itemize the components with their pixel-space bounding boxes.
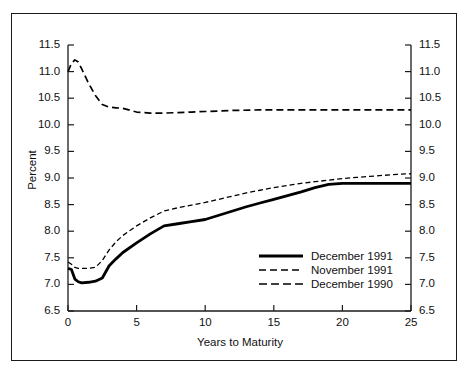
legend-swatch-solid [258, 250, 304, 262]
x-tick-label: 15 [259, 316, 289, 328]
y-tick-label: 7.0 [26, 277, 60, 289]
y-tick-label: 10.0 [26, 118, 60, 130]
legend-label: November 1991 [311, 264, 393, 276]
x-tick-label: 25 [396, 316, 426, 328]
y-tick-label-right: 11.5 [419, 38, 453, 50]
legend-label: December 1990 [311, 278, 393, 290]
y-tick-label: 11.5 [26, 38, 60, 50]
y-tick-label-right: 10.0 [419, 118, 453, 130]
y-tick-label: 8.0 [26, 224, 60, 236]
x-tick-label: 0 [53, 316, 83, 328]
y-tick-label-right: 8.5 [419, 198, 453, 210]
y-tick-label-right: 10.5 [419, 91, 453, 103]
legend-item-december-1991: December 1991 [258, 249, 408, 263]
legend-swatch-dashed [258, 278, 304, 290]
y-tick-label-right: 7.5 [419, 251, 453, 263]
y-tick-label: 10.5 [26, 91, 60, 103]
y-tick-label: 6.5 [26, 304, 60, 316]
x-axis-title: Years to Maturity [150, 336, 330, 348]
y-tick-label-right: 9.5 [419, 144, 453, 156]
y-tick-label: 7.5 [26, 251, 60, 263]
x-tick-label: 20 [327, 316, 357, 328]
legend: December 1991 November 1991 December 199… [258, 249, 408, 291]
y-tick-label-right: 9.0 [419, 171, 453, 183]
y-tick-label-right: 7.0 [419, 277, 453, 289]
y-tick-label-right: 11.0 [419, 65, 453, 77]
y-tick-label: 11.0 [26, 65, 60, 77]
x-tick-label: 5 [122, 316, 152, 328]
legend-swatch-dashed-fine [258, 264, 304, 276]
legend-item-november-1991: November 1991 [258, 263, 408, 277]
figure: 6.57.07.58.08.59.09.510.010.511.011.5 6.… [0, 0, 471, 375]
legend-label: December 1991 [311, 250, 393, 262]
y-tick-label-right: 8.0 [419, 224, 453, 236]
legend-item-december-1990: December 1990 [258, 277, 408, 291]
series-line-december-1990 [68, 60, 411, 113]
y-tick-label-right: 6.5 [419, 304, 453, 316]
x-tick-label: 10 [190, 316, 220, 328]
y-axis-title: Percent [26, 130, 38, 210]
